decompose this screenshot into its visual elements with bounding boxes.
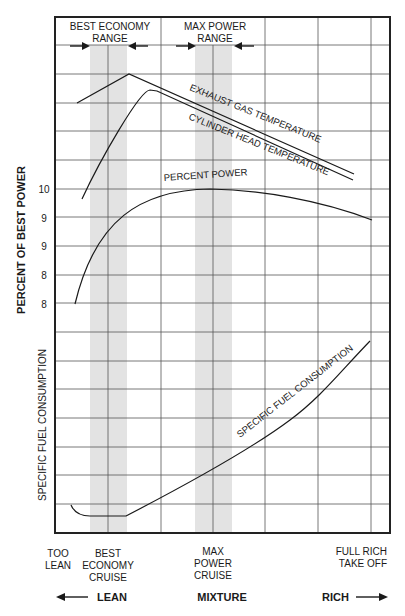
- range-max-power-line1: MAX POWER: [184, 21, 246, 32]
- x-cat-max-power-3: CRUISE: [194, 570, 232, 581]
- y-axis-label-power: PERCENT OF BEST POWER: [15, 166, 27, 314]
- y-tick: 9: [41, 241, 47, 252]
- y-axis-label-sfc: SPECIFIC FUEL CONSUMPTION: [37, 349, 48, 501]
- sfc-label: SPECIFIC FUEL CONSUMPTION: [234, 342, 355, 440]
- direction-mixture: MIXTURE: [197, 591, 247, 603]
- x-cat-full-rich-1: FULL RICH: [336, 546, 387, 557]
- mixture-chart: BEST ECONOMY RANGE MAX POWER RANGE EXHAU…: [0, 0, 405, 616]
- y-tick: 8: [41, 270, 47, 281]
- direction-lean: LEAN: [97, 591, 127, 603]
- x-cat-too-lean-2: LEAN: [45, 560, 71, 571]
- x-cat-best-economy-2: ECONOMY: [82, 560, 134, 571]
- rich-arrow-icon: [356, 593, 388, 601]
- x-cat-max-power-1: MAX: [202, 546, 224, 557]
- lean-arrow-icon: [56, 593, 88, 601]
- range-best-economy-line2: RANGE: [92, 33, 128, 44]
- x-cat-full-rich-2: TAKE OFF: [339, 558, 387, 569]
- x-cat-best-economy-1: BEST: [95, 548, 121, 559]
- x-cat-best-economy-3: CRUISE: [89, 572, 127, 583]
- range-best-economy-line1: BEST ECONOMY: [70, 21, 151, 32]
- direction-rich: RICH: [322, 591, 349, 603]
- y-tick: 9: [41, 213, 47, 224]
- x-cat-max-power-2: POWER: [194, 558, 232, 569]
- y-tick: 8: [41, 299, 47, 310]
- range-max-power-line2: RANGE: [197, 33, 233, 44]
- y-tick: 10: [38, 184, 50, 195]
- x-cat-too-lean-1: TOO: [47, 548, 69, 559]
- best-economy-band: [90, 45, 127, 533]
